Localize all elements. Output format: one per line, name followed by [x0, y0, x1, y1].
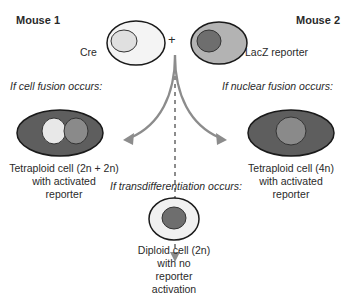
arrowhead-left-icon: [123, 133, 134, 145]
diploid-cell: [149, 198, 199, 240]
transdiff-condition: If transdifferentiation occurs:: [110, 180, 242, 192]
cell-fusion-condition: If cell fusion occurs:: [10, 80, 102, 92]
lacz-label: LacZ reporter: [245, 46, 308, 59]
cell-fusion-result: Tetraploid cell (2n + 2n) with activated…: [0, 162, 128, 201]
tetraploid-nuclear-fusion: [248, 110, 334, 156]
lacz-reporter-cell: [191, 22, 247, 64]
mouse2-title: Mouse 2: [296, 14, 340, 26]
mouse1-title: Mouse 1: [16, 14, 60, 26]
transdiff-result: Diploid cell (2n) with no reporter activ…: [124, 244, 224, 296]
arrowhead-right-icon: [216, 133, 227, 145]
cre-label: Cre: [80, 46, 97, 59]
cre-cell: [107, 21, 165, 65]
nuclear-fusion-condition: If nuclear fusion occurs:: [222, 80, 333, 92]
nuclear-fusion-result: Tetraploid cell (4n) with activated repo…: [236, 162, 346, 201]
tetraploid-cell-fusion: [17, 110, 103, 156]
plus-sign: +: [168, 32, 176, 47]
